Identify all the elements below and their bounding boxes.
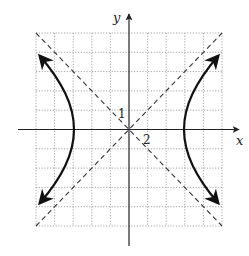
y-tick-label: 1 — [118, 107, 126, 121]
x-axis-label: x — [236, 133, 244, 148]
hyperbola-figure: y x 1 2 — [0, 0, 249, 256]
y-axis-label: y — [112, 10, 121, 25]
x-tick-label: 2 — [143, 133, 151, 147]
